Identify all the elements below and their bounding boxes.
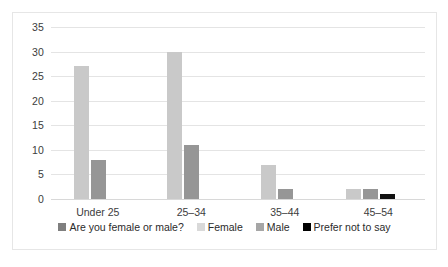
bar[interactable] (363, 189, 378, 199)
chart-container: 05101520253035 Under 2525–3435–4445–54 A… (12, 12, 437, 250)
bar-group (145, 27, 239, 199)
legend-item[interactable]: Prefer not to say (303, 221, 391, 233)
chart-legend: Are you female or male?FemaleMalePrefer … (13, 221, 436, 233)
y-tick-label: 35 (32, 21, 44, 33)
x-tick-label: 25–34 (145, 206, 239, 218)
x-tick-label: 45–54 (332, 206, 426, 218)
legend-label: Female (208, 221, 243, 233)
bar[interactable] (167, 52, 182, 199)
y-tick-label: 25 (32, 70, 44, 82)
bar[interactable] (380, 194, 395, 199)
bar-group (332, 27, 426, 199)
bar-groups (51, 27, 425, 199)
bar[interactable] (91, 160, 106, 199)
x-tick-label: Under 25 (51, 206, 145, 218)
y-tick-label: 30 (32, 46, 44, 58)
legend-swatch-icon (58, 223, 66, 231)
bar[interactable] (184, 145, 199, 199)
bar-group (51, 27, 145, 199)
legend-swatch-icon (303, 223, 311, 231)
legend-label: Male (267, 221, 290, 233)
legend-label: Prefer not to say (314, 221, 391, 233)
y-tick-label: 10 (32, 144, 44, 156)
legend-label: Are you female or male? (69, 221, 183, 233)
plot-area: 05101520253035 Under 2525–3435–4445–54 (51, 27, 425, 199)
legend-swatch-icon (197, 223, 205, 231)
bar-group (238, 27, 332, 199)
y-tick-label: 15 (32, 119, 44, 131)
gridline-0 (51, 199, 425, 200)
legend-swatch-icon (256, 223, 264, 231)
bar[interactable] (74, 66, 89, 199)
y-tick-label: 5 (38, 168, 44, 180)
y-tick-label: 0 (38, 193, 44, 205)
bar[interactable] (261, 165, 276, 199)
legend-item[interactable]: Are you female or male? (58, 221, 183, 233)
x-tick-label: 35–44 (238, 206, 332, 218)
legend-item[interactable]: Female (197, 221, 243, 233)
legend-item[interactable]: Male (256, 221, 290, 233)
bar[interactable] (278, 189, 293, 199)
y-tick-label: 20 (32, 95, 44, 107)
bar[interactable] (346, 189, 361, 199)
